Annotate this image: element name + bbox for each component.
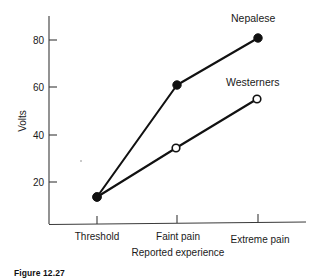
- line-chart: 80 60 40 20 Volts Threshold Faint pain E…: [0, 0, 318, 280]
- x-category-labels: Threshold Faint pain Extreme pain: [75, 231, 290, 245]
- figure-caption: Figure 12.27: [14, 268, 65, 278]
- series-label-nepalese: Nepalese: [231, 12, 276, 24]
- data-point-westerners-extreme-pain: [253, 95, 261, 103]
- data-point-westerners-threshold: [93, 193, 101, 201]
- series-label-westerners: Westerners: [226, 76, 280, 88]
- x-label-threshold: Threshold: [75, 231, 119, 242]
- y-tick-labels: 80 60 40 20: [33, 35, 45, 188]
- data-point-westerners-faint-pain: [172, 144, 180, 152]
- scan-speck: [80, 160, 82, 162]
- series-westerners: [93, 95, 261, 201]
- data-point-nepalese-extreme-pain: [254, 34, 262, 42]
- x-label-extreme-pain: Extreme pain: [231, 234, 290, 245]
- x-axis-title: Reported experience: [132, 247, 225, 258]
- y-tick-group: [49, 40, 57, 182]
- data-point-nepalese-faint-pain: [173, 81, 181, 89]
- axis-group: [49, 16, 306, 225]
- figure-container: 80 60 40 20 Volts Threshold Faint pain E…: [0, 0, 318, 280]
- y-tick-label-20: 20: [33, 177, 45, 188]
- x-label-faint-pain: Faint pain: [156, 231, 200, 242]
- series-nepalese-line: [97, 38, 258, 197]
- series-nepalese: [93, 34, 262, 201]
- y-tick-label-80: 80: [33, 35, 45, 46]
- y-tick-label-40: 40: [33, 130, 45, 141]
- y-axis-title: Volts: [17, 110, 28, 132]
- y-tick-label-60: 60: [33, 82, 45, 93]
